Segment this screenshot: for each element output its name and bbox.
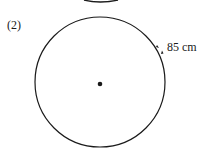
arc-length-label: 85 cm	[167, 41, 197, 53]
arc-start-marker	[156, 45, 159, 48]
problem-number: (2)	[7, 19, 21, 31]
previous-figure-arc	[84, 0, 118, 2]
arc-end-marker	[161, 51, 164, 55]
circle-diagram	[0, 0, 199, 149]
center-point	[98, 82, 103, 87]
